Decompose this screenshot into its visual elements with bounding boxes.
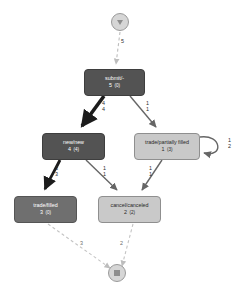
node-label: cancel/canceled bbox=[111, 203, 149, 209]
edge-cancel-canceled-to-end bbox=[122, 224, 133, 266]
edge-label-submit-to-new: 4 4 bbox=[102, 100, 105, 112]
stop-icon bbox=[114, 270, 120, 276]
start-node[interactable] bbox=[111, 13, 129, 31]
edge-start-to-submit bbox=[116, 32, 120, 64]
edge-submit-to-new bbox=[82, 96, 104, 126]
node-stats: 5(0) bbox=[109, 83, 120, 89]
node-frequency-secondary: (2) bbox=[129, 210, 135, 215]
node-stats: 3(0) bbox=[40, 210, 51, 216]
edge-trade-filled-to-end bbox=[48, 224, 110, 268]
node-frequency: 5 bbox=[109, 82, 112, 88]
node-frequency: 4 bbox=[68, 146, 71, 152]
edge-trade-partially-filled-to-cancel-canceled bbox=[142, 160, 162, 190]
node-frequency-secondary: (0) bbox=[114, 83, 120, 88]
edge-label-new-to-cancel-canceled: 1 1 bbox=[103, 165, 106, 177]
edge-label-cancel-canceled-to-end: 2 bbox=[120, 240, 123, 246]
node-frequency-secondary: (4) bbox=[73, 147, 79, 152]
edge-label-new-to-trade-filled: 3 3 bbox=[55, 165, 58, 177]
play-icon bbox=[117, 20, 123, 25]
node-frequency: 1 bbox=[161, 146, 164, 152]
node-submit[interactable]: submit/- 5(0) bbox=[84, 69, 145, 96]
process-model-canvas: submit/- 5(0) new/new 4(4) trade/partial… bbox=[0, 0, 242, 295]
edge-label-trade-partially-filled-to-cancel-canceled: 1 1 bbox=[149, 165, 152, 177]
edge-new-to-cancel-canceled bbox=[86, 160, 117, 190]
node-trade-partially-filled[interactable]: trade/partially filled 1(3) bbox=[134, 133, 200, 160]
edge-label-start-to-submit: 5 bbox=[121, 38, 124, 44]
node-stats: 4(4) bbox=[68, 147, 79, 153]
node-label: submit/- bbox=[105, 76, 124, 82]
node-stats: 1(3) bbox=[161, 147, 172, 153]
edge-label-submit-to-trade-partially-filled: 1 1 bbox=[146, 100, 149, 112]
edge-trade-partially-filled-self-loop bbox=[200, 137, 218, 154]
node-label: trade/partially filled bbox=[145, 140, 189, 146]
edge-submit-to-trade-partially-filled bbox=[130, 96, 156, 127]
node-trade-filled[interactable]: trade/filled 3(0) bbox=[14, 196, 77, 223]
node-stats: 2(2) bbox=[124, 210, 135, 216]
node-cancel-canceled[interactable]: cancel/canceled 2(2) bbox=[98, 196, 161, 223]
edge-label-trade-filled-to-end: 3 bbox=[80, 240, 83, 246]
node-label: new/new bbox=[63, 140, 84, 146]
node-frequency-secondary: (3) bbox=[167, 147, 173, 152]
node-label: trade/filled bbox=[33, 203, 57, 209]
node-frequency-secondary: (0) bbox=[45, 210, 51, 215]
node-new[interactable]: new/new 4(4) bbox=[42, 133, 105, 160]
node-frequency: 2 bbox=[124, 209, 127, 215]
edge-label-trade-partially-filled-self-loop: 1 2 bbox=[228, 137, 231, 149]
edge-layer bbox=[0, 0, 242, 295]
node-frequency: 3 bbox=[40, 209, 43, 215]
end-node[interactable] bbox=[108, 264, 126, 282]
